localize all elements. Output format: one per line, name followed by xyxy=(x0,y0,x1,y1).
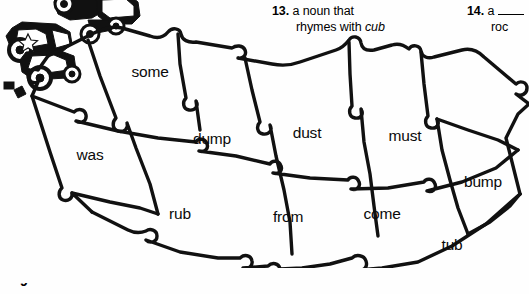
puzzle-cell-some: some xyxy=(131,63,168,81)
clue-number: 13. xyxy=(272,4,289,18)
puzzle-cell-bump: bump xyxy=(464,173,502,191)
puzzle-cell-tub: tub xyxy=(442,236,463,254)
puzzle-cell-from: from xyxy=(273,208,303,226)
fill-in-blank-line xyxy=(498,4,524,15)
clue-text-line1-prefix: a xyxy=(487,4,497,18)
clue-text-line1: a noun that xyxy=(292,4,353,18)
puzzle-cell-was: was xyxy=(77,146,104,164)
puzzle-cell-dust: dust xyxy=(293,124,322,142)
puzzle-cell-dump: dump xyxy=(193,130,231,148)
cropped-bottom-character: 9 xyxy=(20,283,31,294)
puzzle-cell-rub: rub xyxy=(169,205,191,223)
puzzle-cell-come: come xyxy=(363,205,400,223)
worksheet-page: 13. a noun that rhymes with cub 14. a ro… xyxy=(0,0,529,294)
clue-number: 14. xyxy=(467,4,484,18)
jigsaw-word-puzzle: some was dump dust must bump rub from co… xyxy=(0,18,529,268)
puzzle-cell-must: must xyxy=(389,127,422,145)
cropped-bottom-character-text: 9 xyxy=(20,283,28,288)
